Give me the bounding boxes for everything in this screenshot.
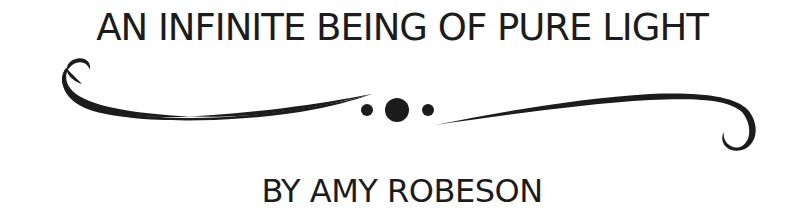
author-byline: BY AMY ROBESON [0, 172, 804, 210]
